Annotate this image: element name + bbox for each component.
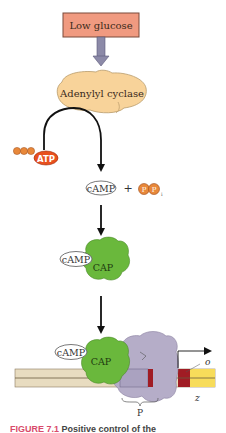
low-glucose-label: Low glucose — [69, 20, 132, 31]
complex-cap-label: CAP — [93, 262, 114, 273]
camp-label: cAMP — [87, 183, 116, 194]
figure-caption: FIGURE 7.1 Positive control of the — [10, 424, 220, 433]
signal-arrow — [93, 37, 109, 66]
dna-cap-label: CAP — [91, 356, 112, 367]
products: cAMP + P P i — [86, 181, 163, 197]
complex-camp-label: cAMP — [62, 254, 91, 265]
camp-cap-complex: cAMP CAP — [60, 237, 130, 280]
figure-number: FIGURE 7.1 — [10, 424, 59, 433]
plus-sign: + — [123, 182, 132, 195]
pyrophosphate-p1: P — [142, 186, 147, 194]
atp-molecule: ATP — [13, 147, 58, 165]
gene-label: z — [194, 393, 200, 403]
atp-label: ATP — [37, 154, 55, 164]
pyrophosphate-subscript: i — [161, 191, 163, 197]
operator-label: o — [205, 357, 211, 367]
pyrophosphate-p2: P — [152, 186, 157, 194]
dna-camp-label: cAMP — [57, 347, 86, 358]
camp-cap-pathway-diagram: Low glucose Adenylyl cyclase ATP cAMP + … — [0, 0, 226, 433]
adenylyl-cyclase-enzyme: Adenylyl cyclase — [57, 70, 146, 113]
promoter-label: P — [137, 408, 143, 418]
low-glucose-box: Low glucose — [63, 13, 139, 37]
adenylyl-cyclase-label: Adenylyl cyclase — [59, 88, 144, 99]
transcription-start-arrow — [178, 351, 208, 368]
caption-text: Positive control of the — [62, 424, 157, 433]
